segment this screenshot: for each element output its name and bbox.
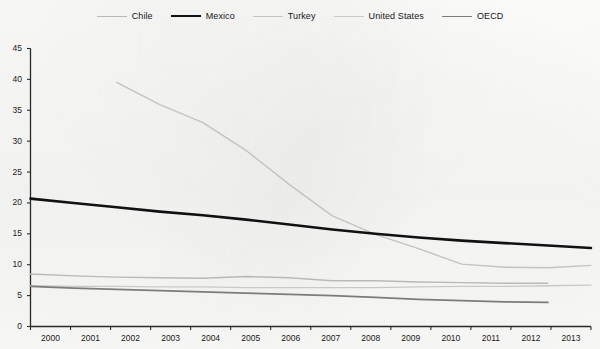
series-line-turkey xyxy=(117,82,591,267)
y-tick-label: 5 xyxy=(2,290,22,300)
x-tick-label: 2001 xyxy=(71,333,111,343)
x-tick-label: 2004 xyxy=(191,333,231,343)
x-tick-label: 2008 xyxy=(351,333,391,343)
x-tick-label: 2011 xyxy=(471,333,511,343)
y-tick-label: 20 xyxy=(2,197,22,207)
line-chart: 0510152025303540452000200120022003200420… xyxy=(0,0,600,349)
x-tick-label: 2000 xyxy=(31,333,71,343)
series-line-chile xyxy=(31,274,548,283)
x-tick-label: 2002 xyxy=(111,333,151,343)
x-tick-label: 2012 xyxy=(511,333,551,343)
x-tick-label: 2010 xyxy=(431,333,471,343)
x-tick-label: 2013 xyxy=(551,333,591,343)
plot-svg xyxy=(0,0,600,349)
x-tick-label: 2006 xyxy=(271,333,311,343)
y-tick-label: 25 xyxy=(2,167,22,177)
y-tick-label: 45 xyxy=(2,43,22,53)
y-tick-label: 0 xyxy=(2,321,22,331)
x-tick-label: 2009 xyxy=(391,333,431,343)
series-line-mexico xyxy=(31,199,592,248)
y-tick-label: 40 xyxy=(2,74,22,84)
x-tick-label: 2005 xyxy=(231,333,271,343)
series-line-oecd xyxy=(31,286,548,302)
y-tick-label: 35 xyxy=(2,105,22,115)
series-line-united-states xyxy=(31,285,592,287)
y-tick-label: 30 xyxy=(2,136,22,146)
x-tick-label: 2003 xyxy=(151,333,191,343)
x-tick-label: 2007 xyxy=(311,333,351,343)
y-tick-label: 15 xyxy=(2,228,22,238)
y-tick-label: 10 xyxy=(2,259,22,269)
